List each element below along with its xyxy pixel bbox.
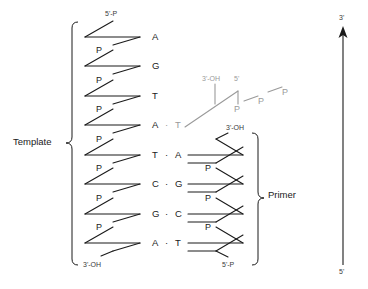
template-base-8: A bbox=[152, 238, 158, 248]
template-base-1: A bbox=[152, 32, 158, 42]
template-phosphate-1: P bbox=[96, 46, 102, 55]
template-phosphate-4: P bbox=[96, 135, 102, 144]
primer-phosphate-1: P bbox=[205, 164, 211, 173]
template-base-6: C bbox=[152, 179, 159, 189]
primer-base-4: T bbox=[175, 238, 181, 248]
incoming-phosphate-alpha: P bbox=[234, 105, 240, 114]
primer-three-prime-label: 3'-OH bbox=[226, 124, 244, 131]
primer-base-1: A bbox=[175, 150, 181, 160]
template-brace bbox=[66, 22, 78, 265]
primer-phosphate-3: P bbox=[205, 223, 211, 232]
template-sugar-3 bbox=[85, 80, 140, 104]
primer-sugar-1 bbox=[188, 139, 243, 163]
template-phosphate-2: P bbox=[96, 76, 102, 85]
incoming-phosphate-gamma: P bbox=[282, 88, 288, 97]
template-label: Template bbox=[13, 137, 52, 147]
template-three-prime-label: 3'-OH bbox=[83, 261, 101, 268]
primer-base-2: G bbox=[175, 179, 182, 189]
template-sugar-8 bbox=[85, 227, 140, 251]
incoming-three-prime-label: 3'-OH bbox=[202, 75, 220, 82]
template-base-4: A bbox=[152, 120, 158, 130]
template-sugar-5 bbox=[85, 139, 140, 163]
pair-dot-4: · bbox=[165, 120, 168, 130]
template-sugar-6 bbox=[85, 168, 140, 192]
primer-phosphate-2: P bbox=[205, 194, 211, 203]
primer-three-prime-tick bbox=[216, 133, 228, 139]
direction-arrow bbox=[339, 26, 348, 265]
incoming-base: T bbox=[175, 120, 181, 130]
primer-five-prime-tick bbox=[216, 251, 228, 257]
template-phosphate-3: P bbox=[96, 105, 102, 114]
primer-sugar-4 bbox=[188, 227, 243, 251]
template-sugar-4 bbox=[85, 109, 140, 133]
template-phosphate-7: P bbox=[96, 223, 102, 232]
diagram-linework bbox=[0, 0, 368, 289]
incoming-phosphate-beta: P bbox=[258, 97, 264, 106]
primer-label: Primer bbox=[268, 190, 296, 200]
pair-dot-7: · bbox=[165, 209, 168, 219]
incoming-five-prime-label: 5' bbox=[234, 75, 239, 82]
primer-sugar-3 bbox=[188, 198, 243, 222]
primer-five-prime-label: 5'-P bbox=[222, 261, 234, 268]
template-base-2: G bbox=[152, 61, 159, 71]
direction-arrow-top-label: 3' bbox=[339, 14, 344, 21]
template-phosphate-6: P bbox=[96, 194, 102, 203]
pair-dot-6: · bbox=[165, 179, 168, 189]
dna-replication-diagram: Template 5'-P 3'-OH P P P P P P P A G T … bbox=[0, 0, 368, 289]
pair-dot-8: · bbox=[165, 238, 168, 248]
template-sugar-1 bbox=[85, 21, 140, 45]
template-five-prime-label: 5'-P bbox=[105, 10, 117, 17]
template-phosphate-5: P bbox=[96, 164, 102, 173]
primer-base-3: C bbox=[175, 209, 182, 219]
template-base-3: T bbox=[152, 91, 158, 101]
template-sugar-2 bbox=[85, 50, 140, 74]
template-base-5: T bbox=[152, 150, 158, 160]
template-three-prime-tick bbox=[101, 251, 113, 256]
primer-sugar-2 bbox=[188, 168, 243, 192]
template-base-7: G bbox=[152, 209, 159, 219]
primer-brace bbox=[252, 133, 264, 265]
pair-dot-5: · bbox=[165, 150, 168, 160]
direction-arrow-bottom-label: 5' bbox=[339, 268, 344, 275]
template-sugar-7 bbox=[85, 198, 140, 222]
